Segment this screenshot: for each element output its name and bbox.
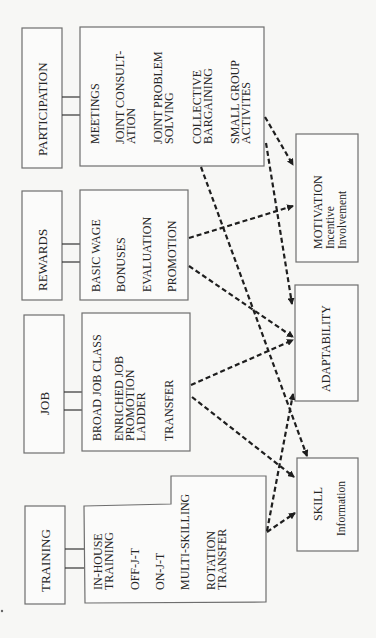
item-broad-job-class: BROAD JOB CLASS [90,334,104,441]
rewards-label: REWARDS [35,229,50,291]
item-enriched-3: LADDER [134,392,148,441]
outcome-adaptability: ADAPTABILITY [295,285,358,401]
item-transfer: TRANSFER [162,380,176,441]
item-basic-wage: BASIC WAGE [89,219,103,292]
arrow-training-adaptability [267,394,293,531]
item-in-house-2: TRAINING [102,532,116,590]
item-on-jt: ON-J-T [153,552,167,590]
arrow-training-skill [267,513,295,532]
arrow-participation-skill [201,167,307,456]
outcome-skill: SKILL Information [297,458,358,551]
item-evaluation: EVALUATION [140,217,154,292]
skill-box [297,458,358,551]
category-participation: PARTICIPATION MEETINGS JOINT CONSULT- AT… [22,27,264,168]
item-meetings: MEETINGS [88,83,102,144]
item-collective-2: BARGAINING [201,68,215,144]
diagram-canvas: PARTICIPATION MEETINGS JOINT CONSULT- AT… [0,0,376,638]
training-label: TRAINING [38,529,53,592]
arrow-rewards-motivation [189,206,293,238]
category-training: TRAINING IN-HOUSE TRAINING OFF-J-T ON-J-… [25,476,266,604]
item-bonuses: BONUSES [114,237,128,292]
category-rewards: REWARDS BASIC WAGE BONUSES EVALUATION PR… [22,190,188,300]
skill-sub: Information [335,481,347,536]
item-multi-skilling: MULTI-SKILLING [178,493,192,590]
item-off-jt: OFF-J-T [128,547,142,590]
job-label-box [24,315,64,453]
item-rotation-2: TRANSFER [215,529,229,590]
item-small-group-2: ACTIVITES [239,82,253,144]
stray-mark [1,610,3,612]
motivation-sub-1: Incentive [324,206,336,249]
item-promotion: PROMOTION [165,220,179,292]
arrows [189,117,307,532]
item-joint-consultation-2: ATION [124,108,138,144]
motivation-sub-2: Involvement [336,190,348,249]
arrow-participation-adaptability [266,143,292,304]
category-job: JOB BROAD JOB CLASS ENRICHED JOB PROMOTI… [24,313,190,453]
item-joint-problem-2: SOLVING [162,92,176,144]
outcome-motivation: MOTIVATION Incentive Involvement [296,134,358,262]
job-label: JOB [37,392,52,415]
adaptability-label: ADAPTABILITY [319,305,333,392]
participation-label: PARTICIPATION [35,62,50,156]
skill-label: SKILL [311,487,325,521]
arrow-participation-motivation [265,117,293,165]
motivation-label: MOTIVATION [311,175,325,249]
